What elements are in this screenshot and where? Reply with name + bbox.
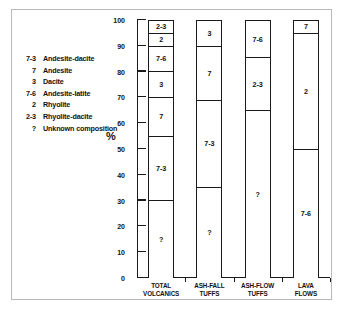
- stacked-bar: ?2-37-6: [245, 20, 271, 278]
- bar-segment-label: 2-3: [156, 23, 166, 30]
- y-axis-tick: [137, 19, 146, 20]
- legend-item-key: 2: [14, 100, 36, 109]
- y-axis-tick: [137, 199, 146, 200]
- bar-segment: 7-6: [149, 47, 173, 73]
- bar-segment: 3: [149, 72, 173, 98]
- legend-item-label: Rhyolite-dacite: [36, 112, 92, 121]
- legend-item-key: 3: [14, 77, 36, 86]
- y-axis-tick-label: 70: [117, 94, 125, 101]
- y-axis-tick-label: 0: [121, 275, 125, 282]
- category-label-line: VOLCANICS: [137, 290, 185, 298]
- bar-segment: ?: [246, 111, 270, 278]
- category-separator-tick: [330, 278, 331, 282]
- category-label-line: ASH-FALL: [185, 282, 233, 290]
- figure-root: 7-3Andesite-dacite7Andesite3Dacite7-6And…: [0, 0, 343, 311]
- legend-item-label: Andesite-latite: [36, 89, 90, 98]
- y-axis-tick-label: 90: [117, 42, 125, 49]
- category-label: LAVAFLOWS: [282, 282, 330, 298]
- category-label-line: TUFFS: [234, 290, 282, 298]
- bar-segment: 2: [294, 34, 318, 150]
- legend-item: 3Dacite: [14, 77, 132, 89]
- bar-segment: 7-3: [197, 101, 221, 188]
- y-axis-tick: [137, 225, 146, 226]
- legend-item-key: 7-3: [14, 54, 36, 63]
- legend-item: 2Rhyolite: [14, 100, 132, 112]
- y-axis-tick-label: 20: [117, 223, 125, 230]
- bar-segment-label: 7-3: [156, 165, 166, 172]
- bar-segment-label: 7: [207, 70, 211, 77]
- category-label-line: LAVA: [282, 282, 330, 290]
- bar-segment: ?: [149, 201, 173, 278]
- bar-segment-label: ?: [159, 236, 163, 243]
- bar-segment-label: 2-3: [253, 81, 263, 88]
- legend-item-label: Rhyolite: [36, 100, 70, 109]
- bar-segment-label: 2: [304, 88, 308, 95]
- bar-segment: 7: [197, 47, 221, 101]
- legend-item-label: Dacite: [36, 77, 64, 86]
- category-label: ASH-FALLTUFFS: [185, 282, 233, 298]
- bar-segment: 3: [197, 21, 221, 47]
- legend-item: 2-3Rhyolite-dacite: [14, 112, 132, 124]
- bar-segment: 7: [149, 98, 173, 137]
- bar-segment-label: 2: [159, 36, 163, 43]
- bar-segment-label: 7-6: [301, 210, 311, 217]
- bar-segment-label: 7: [159, 113, 163, 120]
- bar-segment-label: 3: [207, 30, 211, 37]
- bar-segment: 2-3: [149, 21, 173, 34]
- y-axis-tick: [137, 122, 146, 123]
- legend: 7-3Andesite-dacite7Andesite3Dacite7-6And…: [14, 54, 132, 135]
- category-label-line: ASH-FLOW: [234, 282, 282, 290]
- y-axis-tick: [137, 174, 146, 175]
- legend-item-key: 7: [14, 66, 36, 75]
- y-axis-tick-label: 40: [117, 171, 125, 178]
- legend-item-label: Andesite: [36, 66, 72, 75]
- legend-item: 7-6Andesite-latite: [14, 89, 132, 101]
- category-label-line: TUFFS: [185, 290, 233, 298]
- category-label: TOTALVOLCANICS: [137, 282, 185, 298]
- bar-segment: ?: [197, 188, 221, 278]
- plot-area: % 0102030405060708090100 ?7-3737-622-3?7…: [137, 20, 330, 278]
- bar-segment: 2: [149, 34, 173, 47]
- y-axis-tick-label: 80: [117, 68, 125, 75]
- y-axis-tick: [137, 251, 146, 252]
- legend-item: 7-3Andesite-dacite: [14, 54, 132, 66]
- bar-segment: 7-6: [246, 21, 270, 58]
- bar-segment-label: 3: [159, 81, 163, 88]
- y-axis-line: [137, 20, 138, 278]
- category-label-line: TOTAL: [137, 282, 185, 290]
- stacked-bar: 7-627: [293, 20, 319, 278]
- y-axis-tick: [137, 96, 146, 97]
- stacked-bar: ?7-3737-622-3: [148, 20, 174, 278]
- bar-segment: 7-3: [149, 137, 173, 201]
- y-axis-tick-label: 10: [117, 249, 125, 256]
- y-axis-tick: [137, 45, 146, 46]
- bar-segment-label: 7: [304, 23, 308, 30]
- category-label-line: FLOWS: [282, 290, 330, 298]
- legend-item-key: 2-3: [14, 112, 36, 121]
- bar-segment-label: 7-3: [204, 140, 214, 147]
- category-label: ASH-FLOWTUFFS: [234, 282, 282, 298]
- legend-item-label: Andesite-dacite: [36, 54, 94, 63]
- y-axis-tick: [137, 70, 146, 71]
- y-axis-tick: [137, 277, 146, 278]
- y-axis-title: %: [106, 130, 116, 142]
- legend-item-key: ?: [14, 124, 36, 133]
- bar-segment-label: 7-6: [253, 36, 263, 43]
- y-axis-tick: [137, 148, 146, 149]
- bar-segment: 7-6: [294, 150, 318, 279]
- bar-segment-label: ?: [207, 229, 211, 236]
- bar-segment: 7: [294, 21, 318, 34]
- y-axis-tick-label: 100: [113, 17, 125, 24]
- stacked-bar: ?7-373: [196, 20, 222, 278]
- legend-item: 7Andesite: [14, 66, 132, 78]
- legend-item-key: 7-6: [14, 89, 36, 98]
- bar-segment-label: 7-6: [156, 55, 166, 62]
- y-axis-tick-label: 60: [117, 120, 125, 127]
- y-axis-tick-label: 50: [117, 146, 125, 153]
- y-axis-tick-label: 30: [117, 197, 125, 204]
- bar-segment: 2-3: [246, 58, 270, 111]
- bar-segment-label: ?: [255, 191, 259, 198]
